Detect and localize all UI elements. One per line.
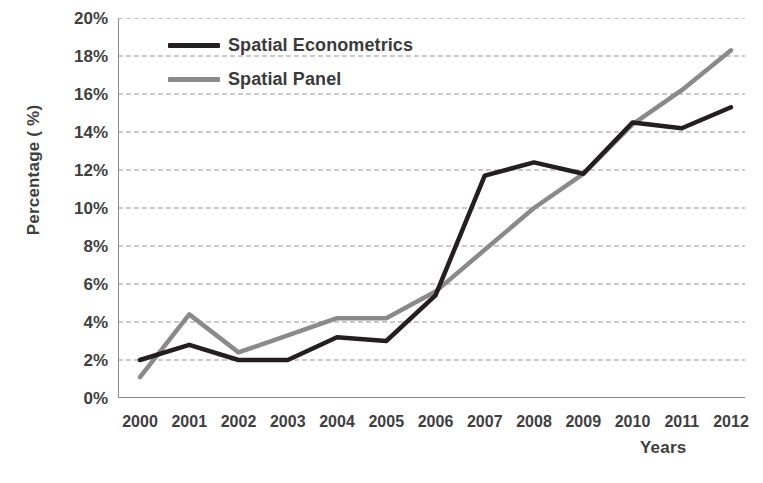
x-tick-label: 2006 [418,413,454,431]
y-tick-label: 10% [52,200,108,217]
x-tick-label: 2008 [516,413,552,431]
x-tick-label: 2007 [467,413,503,431]
x-tick-label: 2011 [664,413,699,431]
series-line [140,50,731,377]
y-tick-label: 6% [52,276,108,293]
y-tick-label: 12% [52,162,108,179]
y-tick-label: 18% [52,48,108,65]
x-tick-label: 2009 [565,413,601,431]
legend-swatch-icon [168,43,220,48]
y-tick-label: 14% [52,124,108,141]
y-axis-title: Percentage ( %) [14,40,54,300]
legend-label: Spatial Panel [228,69,341,90]
chart-figure: Percentage ( %) 0%2%4%6%8%10%12%14%16%18… [0,0,763,483]
y-axis-tick-labels: 0%2%4%6%8%10%12%14%16%18%20% [52,0,108,483]
legend-item[interactable]: Spatial Econometrics [168,28,438,62]
x-tick-label: 2000 [122,413,158,431]
y-tick-label: 20% [52,10,108,27]
chart-legend: Spatial EconometricsSpatial Panel [168,28,438,96]
y-tick-label: 2% [52,352,108,369]
x-tick-label: 2002 [221,413,257,431]
y-tick-label: 8% [52,238,108,255]
x-tick-label: 2010 [615,413,651,431]
y-tick-label: 0% [52,390,108,407]
legend-label: Spatial Econometrics [228,35,413,56]
data-series-group [140,50,731,377]
x-tick-label: 2004 [319,413,355,431]
x-tick-label: 2005 [368,413,404,431]
x-tick-label: 2001 [171,413,207,431]
x-axis-title: Years [640,438,686,458]
x-tick-label: 2003 [270,413,306,431]
legend-swatch-icon [168,77,220,82]
x-tick-label: 2012 [713,413,749,431]
y-tick-label: 16% [52,86,108,103]
y-tick-label: 4% [52,314,108,331]
legend-item[interactable]: Spatial Panel [168,62,438,96]
x-axis-tick-labels: 2000200120022003200420052006200720082009… [0,413,763,439]
